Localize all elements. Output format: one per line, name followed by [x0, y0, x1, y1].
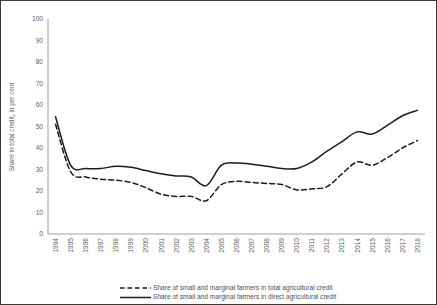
- x-tick-label: 2007: [248, 238, 255, 253]
- x-tick-label: 1998: [112, 238, 119, 253]
- y-tick-label: 20: [36, 187, 44, 194]
- y-axis-title: Share in total credit, in per cent: [8, 83, 16, 172]
- y-tick-label: 30: [36, 166, 44, 173]
- x-tick-label: 1995: [67, 238, 74, 253]
- x-tick-label: 2004: [203, 238, 210, 253]
- y-tick-label: 100: [32, 15, 43, 22]
- y-tick-label: 40: [36, 144, 44, 151]
- x-tick-label: 2017: [399, 238, 406, 253]
- x-tick-label: 2008: [263, 238, 270, 253]
- y-axis-tick-labels: 0102030405060708090100: [32, 15, 43, 237]
- series-line-2: [56, 110, 418, 186]
- x-tick-label: 2003: [188, 238, 195, 253]
- x-tick-label: 2006: [233, 238, 240, 253]
- y-tick-label: 60: [36, 101, 44, 108]
- x-tick-label: 2015: [369, 238, 376, 253]
- y-tick-label: 80: [36, 58, 44, 65]
- y-axis-title-group: Share in total credit, in per cent: [8, 83, 16, 172]
- x-tick-label: 2014: [354, 238, 361, 253]
- x-tick-label: 2002: [173, 238, 180, 253]
- chart-figure: Share in total credit, in per cent 01020…: [0, 0, 437, 305]
- y-tick-label: 0: [39, 230, 43, 237]
- y-tick-label: 10: [36, 209, 44, 216]
- y-tick-label: 50: [36, 123, 44, 130]
- y-tick-label: 90: [36, 37, 44, 44]
- chart-legend: Share of small and marginal farmers in t…: [120, 284, 336, 302]
- legend-label-1: Share of small and marginal farmers in t…: [153, 284, 333, 292]
- x-tick-label: 2000: [142, 238, 149, 253]
- x-tick-label: 2012: [323, 238, 330, 253]
- x-tick-label: 2018: [414, 238, 421, 253]
- x-tick-label: 2013: [338, 238, 345, 253]
- x-tick-label: 2010: [293, 238, 300, 253]
- x-tick-label: 1999: [127, 238, 134, 253]
- legend-label-2: Share of small and marginal farmers in d…: [153, 293, 336, 301]
- y-tick-label: 70: [36, 80, 44, 87]
- x-axis-tick-labels: 1994199519961997199819992000200120022003…: [52, 238, 421, 253]
- x-tick-label: 2016: [384, 238, 391, 253]
- series-lines: [56, 110, 418, 201]
- x-tick-label: 2009: [278, 238, 285, 253]
- x-tick-label: 1997: [97, 238, 104, 253]
- x-tick-label: 2005: [218, 238, 225, 253]
- x-tick-label: 1996: [82, 238, 89, 253]
- x-tick-label: 1994: [52, 238, 59, 253]
- x-tick-label: 2001: [158, 238, 165, 253]
- x-tick-label: 2011: [308, 238, 315, 253]
- line-chart: Share in total credit, in per cent 01020…: [1, 1, 437, 305]
